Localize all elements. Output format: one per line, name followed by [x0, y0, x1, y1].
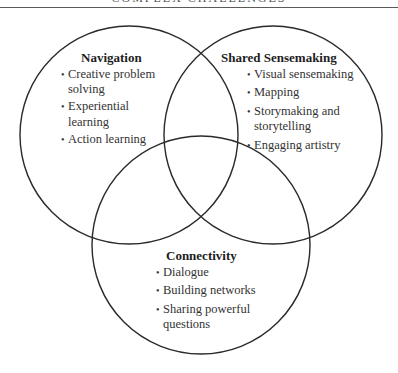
group-title-connectivity: Connectivity	[156, 248, 256, 263]
group-navigation: Navigation Creative problem solving Expe…	[61, 50, 155, 147]
list-item: Engaging artistry	[247, 138, 354, 154]
list-item: Dialogue	[156, 265, 256, 281]
list-item: Visual sensemaking	[247, 67, 354, 83]
navigation-list: Creative problem solving Experiential le…	[61, 67, 155, 148]
group-title-navigation: Navigation	[61, 50, 155, 65]
shared-sensemaking-list: Visual sensemaking Mapping Storymaking a…	[247, 67, 354, 154]
list-item: Action learning	[61, 132, 155, 148]
list-item: Building networks	[156, 283, 256, 299]
list-item: Mapping	[247, 85, 354, 101]
list-item: Storymaking and storytelling	[247, 104, 354, 135]
group-connectivity: Connectivity Dialogue Building networks …	[156, 248, 256, 333]
list-item: Creative problem solving	[61, 67, 155, 98]
connectivity-list: Dialogue Building networks Sharing power…	[156, 265, 256, 333]
group-title-shared-sensemaking: Shared Sensemaking	[221, 50, 354, 65]
group-shared-sensemaking: Shared Sensemaking Visual sensemaking Ma…	[221, 50, 354, 153]
list-item: Experiential learning	[61, 99, 155, 130]
list-item: Sharing powerful questions	[156, 302, 256, 333]
